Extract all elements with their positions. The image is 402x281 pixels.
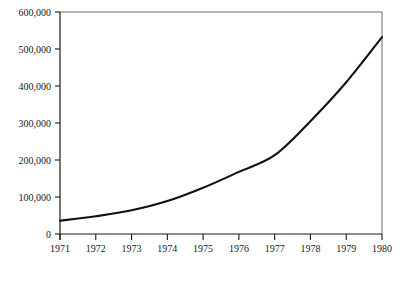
x-axis-tick-label: 1976 bbox=[229, 243, 249, 254]
x-axis-tick-label: 1972 bbox=[86, 243, 106, 254]
x-axis-tick-label: 1979 bbox=[336, 243, 356, 254]
y-axis-tick-label: 500,000 bbox=[19, 44, 52, 55]
x-axis-tick-label: 1977 bbox=[265, 243, 285, 254]
y-axis-tick-label: 300,000 bbox=[19, 118, 52, 129]
x-axis-tick-label: 1971 bbox=[50, 243, 70, 254]
y-axis-tick-label: 600,000 bbox=[19, 7, 52, 18]
chart-figure: 0100,000200,000300,000400,000500,000600,… bbox=[0, 0, 402, 281]
line-chart-canvas: 0100,000200,000300,000400,000500,000600,… bbox=[0, 0, 402, 281]
y-axis-tick-label: 100,000 bbox=[19, 192, 52, 203]
x-axis-tick-label: 1973 bbox=[122, 243, 142, 254]
y-axis-tick-label: 0 bbox=[46, 229, 51, 240]
y-axis-tick-label: 200,000 bbox=[19, 155, 52, 166]
x-axis-tick-label: 1974 bbox=[157, 243, 177, 254]
x-axis-tick-label: 1980 bbox=[372, 243, 392, 254]
x-axis-tick-label: 1975 bbox=[193, 243, 213, 254]
x-axis-tick-label: 1978 bbox=[300, 243, 320, 254]
y-axis-tick-label: 400,000 bbox=[19, 81, 52, 92]
